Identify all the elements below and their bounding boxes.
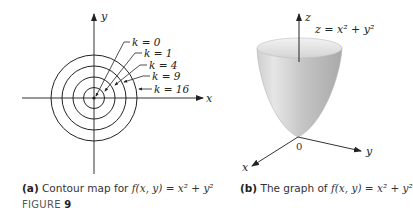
- contour-label-k1: k = 1: [144, 47, 173, 59]
- origin-label: 0: [296, 141, 302, 152]
- caption-a-text: Contour map for: [42, 182, 132, 194]
- contour-k0-point: [92, 96, 95, 99]
- caption-b-function: f(x, y) = x² + y²: [331, 182, 413, 194]
- y-axis-3d-label: y: [365, 145, 373, 158]
- y-axis-label: y: [100, 10, 108, 23]
- caption-a-tag: (a): [22, 182, 39, 194]
- caption-a: (a) Contour map for f(x, y) = x² + y²: [22, 182, 214, 194]
- figure-number: 9: [64, 199, 71, 210]
- surface-equation: z = x² + y²: [314, 23, 374, 36]
- x-axis-3d: [252, 137, 298, 166]
- figure-label: FIGURE 9: [22, 199, 72, 210]
- y-axis-3d: [298, 137, 361, 151]
- caption-b-text: The graph of: [260, 182, 330, 194]
- figure-word: FIGURE: [22, 199, 61, 210]
- paraboloid-graph: z z = x² + y² 0 x y: [242, 11, 374, 174]
- caption-b-tag: (b): [240, 182, 257, 194]
- contour-label-k16: k = 16: [154, 83, 190, 95]
- caption-a-function: f(x, y) = x² + y²: [132, 182, 214, 194]
- z-axis-label: z: [304, 11, 311, 24]
- contour-label-k9: k = 9: [152, 70, 181, 82]
- caption-b: (b) The graph of f(x, y) = x² + y²: [240, 182, 413, 194]
- x-axis-label: x: [206, 92, 213, 105]
- x-axis-3d-label: x: [242, 161, 249, 174]
- contour-map: y x k = 0 k = 1 k = 4 k = 9 k = 16: [22, 10, 213, 174]
